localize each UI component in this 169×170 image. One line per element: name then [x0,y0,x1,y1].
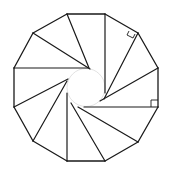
spiral-spoke [78,107,138,142]
dodecagon-edge [33,14,67,33]
dodecagon-edge [33,141,67,161]
right-angle-marker [127,31,135,38]
spiral-spokes [14,14,158,161]
spiral-spoke [33,81,67,141]
dodecagon-edge [138,107,158,142]
right-angle-markers [127,31,158,107]
spiral-spoke [71,103,105,161]
dodecagon-spiral-diagram [0,0,169,170]
inner-circle [67,69,105,107]
spiral-spoke [67,14,89,68]
dodecagon-edge [14,107,33,141]
spiral-spoke [100,68,158,101]
dodecagon-edge [105,14,138,33]
dodecagon-edge [138,33,158,68]
inner-circle-group [67,69,105,107]
right-angle-marker [151,100,158,107]
dodecagon-edge [105,142,138,161]
dodecagon-edge [14,33,33,68]
